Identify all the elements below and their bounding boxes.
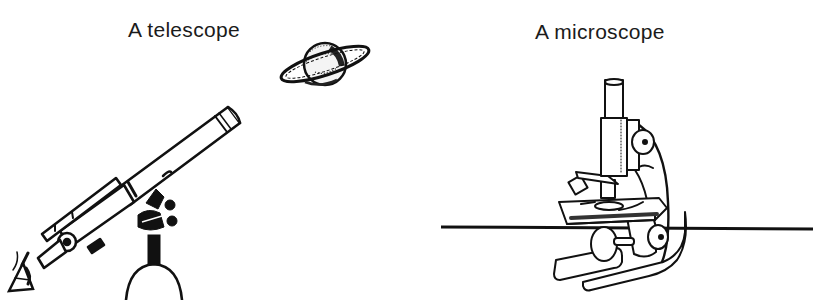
- telescope-icon: [38, 107, 240, 268]
- eye-icon: [9, 252, 33, 291]
- microscope-panel: A microscope: [411, 0, 822, 308]
- telescope-illustration: [0, 0, 411, 308]
- planet-saturn-icon: [278, 39, 372, 88]
- microscope-illustration: [411, 0, 822, 308]
- table-surface-line: [441, 227, 813, 229]
- telescope-panel: A telescope: [0, 0, 411, 308]
- telescope-mount: [126, 189, 182, 300]
- microscope-icon: [554, 79, 686, 291]
